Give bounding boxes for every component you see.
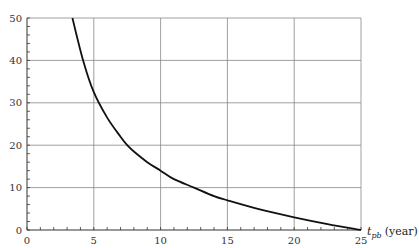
x-axis-label-unit: (year) <box>385 225 418 238</box>
x-axis-label: tpb(year) <box>367 225 418 240</box>
grid <box>27 18 361 230</box>
y-tick-label: 0 <box>16 225 22 236</box>
x-tick-label: 10 <box>154 235 167 246</box>
tick-labels: 051015202501020304050 <box>9 13 367 247</box>
y-tick-label: 40 <box>9 55 22 66</box>
y-tick-label: 30 <box>9 97 22 108</box>
x-tick-label: 15 <box>221 235 234 246</box>
y-tick-label: 20 <box>9 140 22 151</box>
x-tick-label: 20 <box>288 235 301 246</box>
ticks <box>27 18 361 230</box>
data-curve <box>72 18 361 230</box>
y-tick-label: 50 <box>9 13 22 24</box>
x-tick-label: 0 <box>24 235 30 246</box>
x-axis-label-sub: pb <box>371 231 381 240</box>
y-tick-label: 10 <box>9 182 22 193</box>
axes <box>27 18 361 230</box>
x-tick-label: 5 <box>91 235 97 246</box>
x-tick-label: 25 <box>355 235 368 246</box>
chart: 051015202501020304050 tpb(year) <box>0 0 419 248</box>
